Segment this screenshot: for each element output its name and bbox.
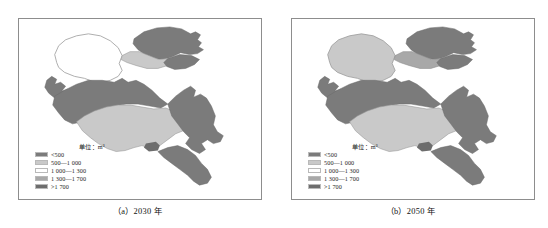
region-southeast-tail: [431, 146, 485, 186]
legend-swatch-icon: [308, 160, 321, 165]
legend-label: 1 300—1 700: [51, 175, 86, 182]
legend-swatch-icon: [35, 184, 48, 189]
legend-title: 单位：m³: [35, 143, 145, 151]
legend-swatch-icon: [308, 176, 321, 181]
panel-caption-2050: （b）2050 年: [281, 206, 540, 218]
legend-item: 500—1 000: [35, 159, 145, 166]
figure-container: 单位：m³ <500 500—1 000 1 000—1 300 1 300—1…: [0, 0, 548, 228]
legend-label: >1 700: [51, 183, 69, 190]
region-east-wing: [168, 86, 224, 153]
legend-label: 500—1 000: [324, 159, 354, 166]
map-legend-2030: 单位：m³ <500 500—1 000 1 000—1 300 1 300—1…: [35, 143, 145, 191]
legend-swatch-icon: [308, 184, 321, 189]
map-panel-2050: 单位：m³ <500 500—1 000 1 000—1 300 1 300—1…: [281, 0, 540, 228]
legend-item: >1 700: [308, 183, 418, 190]
map-frame-2050: 单位：m³ <500 500—1 000 1 000—1 300 1 300—1…: [291, 18, 535, 200]
legend-swatch-icon: [35, 160, 48, 165]
legend-swatch-icon: [308, 168, 321, 173]
legend-item: 1 000—1 300: [308, 167, 418, 174]
legend-label: 1 000—1 300: [324, 167, 359, 174]
legend-item: 1 300—1 700: [35, 175, 145, 182]
legend-swatch-icon: [308, 152, 321, 157]
legend-swatch-icon: [35, 152, 48, 157]
map-panel-2030: 单位：m³ <500 500—1 000 1 000—1 300 1 300—1…: [8, 0, 267, 228]
legend-label: 1 300—1 700: [324, 175, 359, 182]
map-legend-2050: 单位：m³ <500 500—1 000 1 000—1 300 1 300—1…: [308, 143, 418, 191]
region-east-wing: [441, 86, 497, 153]
legend-item: <500: [308, 151, 418, 158]
region-northwest: [55, 34, 122, 82]
legend-item: 1 300—1 700: [308, 175, 418, 182]
legend-item: 500—1 000: [308, 159, 418, 166]
map-frame-2030: 单位：m³ <500 500—1 000 1 000—1 300 1 300—1…: [18, 18, 262, 200]
legend-title: 单位：m³: [308, 143, 418, 151]
legend-label: <500: [324, 151, 337, 158]
legend-label: >1 700: [324, 183, 342, 190]
legend-label: <500: [51, 151, 64, 158]
legend-swatch-icon: [35, 176, 48, 181]
legend-label: 1 000—1 300: [51, 167, 86, 174]
region-southeast-tail: [158, 146, 212, 186]
region-northwest: [328, 34, 395, 82]
legend-item: <500: [35, 151, 145, 158]
panel-caption-2030: （a）2030 年: [8, 206, 267, 218]
legend-item: >1 700: [35, 183, 145, 190]
legend-item: 1 000—1 300: [35, 167, 145, 174]
legend-swatch-icon: [35, 168, 48, 173]
legend-label: 500—1 000: [51, 159, 81, 166]
